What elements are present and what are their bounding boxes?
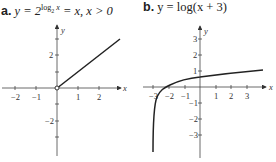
tick-label: 3 — [245, 91, 249, 101]
tick-label: −1 — [32, 92, 41, 102]
tick-label: 2 — [193, 50, 197, 60]
tick-label: −2 — [11, 92, 20, 102]
tick-label: 2 — [49, 50, 53, 60]
tick-label: −2 — [45, 116, 54, 126]
tick-label: 1 — [193, 66, 197, 76]
open-point — [55, 86, 59, 90]
graph-a: −2 −1 1 2 2 −2 y x — [2, 25, 127, 156]
graph-b: −3 −2 −1 1 2 3 3 2 1 −1 −2 −3 y x — [143, 26, 273, 158]
y-axis-label: y — [60, 25, 65, 35]
graph-a-curve — [59, 39, 121, 87]
graphs-canvas: −2 −1 1 2 2 −2 y x −3 −2 −1 1 — [0, 0, 276, 162]
tick-label: −1 — [189, 98, 198, 108]
tick-label: 3 — [193, 34, 197, 44]
tick-label: 1 — [76, 92, 80, 102]
tick-label: 1 — [214, 91, 218, 101]
y-axis-label: y — [203, 26, 208, 36]
tick-label: −3 — [189, 130, 198, 140]
tick-label: 2 — [97, 92, 101, 102]
x-axis-label: x — [268, 82, 273, 92]
graph-b-curve — [153, 70, 263, 152]
tick-label: −2 — [165, 91, 174, 101]
tick-label: 2 — [229, 91, 233, 101]
tick-label: −2 — [189, 114, 198, 124]
x-axis-label: x — [122, 83, 127, 93]
